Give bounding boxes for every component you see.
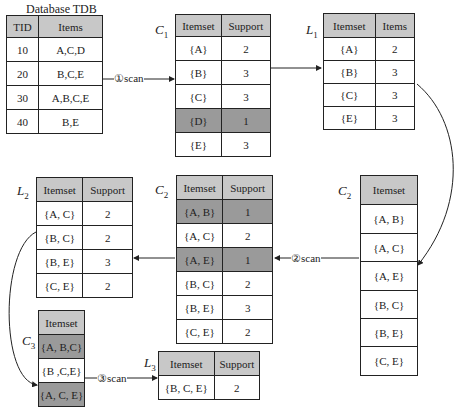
cell: {A} xyxy=(176,37,222,61)
scan-2-label: ②scan xyxy=(291,252,321,265)
l3-table: ItemsetSupport {B, C, E}2 xyxy=(158,351,260,400)
c1-label: C1 xyxy=(155,22,168,40)
col-header: Support xyxy=(83,178,133,202)
cell: 2 xyxy=(223,320,273,344)
cell: 40 xyxy=(7,110,39,134)
c2-label: C2 xyxy=(155,182,168,200)
cell: 1 xyxy=(223,200,273,224)
cell: {E} xyxy=(176,133,222,157)
cell: 2 xyxy=(375,38,414,61)
cell: {B, E} xyxy=(37,250,83,274)
cell: {B, C} xyxy=(177,272,223,296)
cell: 3 xyxy=(375,61,414,84)
cell: 3 xyxy=(221,61,270,85)
scan-1-label: ①scan xyxy=(114,72,144,85)
cell: {B, E} xyxy=(177,296,223,320)
cell: 10 xyxy=(7,38,39,62)
cell: {A} xyxy=(324,38,376,61)
cell: 20 xyxy=(7,62,39,86)
cell: {E} xyxy=(324,107,376,130)
cell: 2 xyxy=(214,376,259,400)
l3-label: L3 xyxy=(144,355,156,373)
col-header: Itemset xyxy=(176,15,222,37)
c2-list-label: C2 xyxy=(338,183,351,201)
col-header: Itemset xyxy=(39,311,85,335)
col-header: TID xyxy=(7,16,39,38)
cell: {C} xyxy=(324,84,376,107)
l2-table: ItemsetSupport {A, C}2 {B, C}2 {B, E}3 {… xyxy=(36,177,133,298)
database-table: TIDItems 10A,C,D 20B,C,E 30A,B,C,E 40B,E xyxy=(6,15,103,134)
cell: 30 xyxy=(7,86,39,110)
cell: {A, B} xyxy=(361,205,418,234)
cell: B,C,E xyxy=(39,62,103,86)
cell: {C, E} xyxy=(177,320,223,344)
cell: 3 xyxy=(221,133,270,157)
cell: 3 xyxy=(83,250,133,274)
cell: {D} xyxy=(176,109,222,133)
cell: {A, C} xyxy=(177,224,223,248)
col-header: Itemset xyxy=(159,352,215,376)
cell: 3 xyxy=(223,296,273,320)
cell: 3 xyxy=(375,107,414,130)
cell: {B, C} xyxy=(37,226,83,250)
cell: {A, C} xyxy=(361,234,418,262)
col-header: Support xyxy=(221,15,270,37)
cell: {B, E} xyxy=(361,319,418,347)
cell: {A, E} xyxy=(177,248,223,272)
cell: {A, C} xyxy=(37,202,83,226)
col-header: Support xyxy=(223,176,273,200)
cell: {A, C, E} xyxy=(39,383,85,407)
col-header: Items xyxy=(375,14,414,38)
col-header: Itemset xyxy=(324,14,376,38)
cell: {C} xyxy=(176,85,222,109)
l1-table: ItemsetItems {A}2 {B}3 {C}3 {E}3 xyxy=(323,13,415,130)
c1-table: ItemsetSupport {A}2 {B}3 {C}3 {D}1 {E}3 xyxy=(175,14,271,157)
cell: {B ,C,E} xyxy=(39,359,85,383)
cell: 1 xyxy=(223,248,273,272)
col-header: Items xyxy=(39,16,103,38)
c2-table: ItemsetSupport {A, B}1 {A, C}2 {A, E}1 {… xyxy=(176,175,273,344)
cell: {B} xyxy=(176,61,222,85)
cell: 2 xyxy=(223,224,273,248)
cell: {B, C} xyxy=(361,291,418,319)
col-header: Itemset xyxy=(177,176,223,200)
l1-label: L1 xyxy=(306,22,318,40)
cell: 2 xyxy=(83,202,133,226)
cell: {C, E} xyxy=(361,347,418,376)
cell: 2 xyxy=(223,272,273,296)
cell: {A, E} xyxy=(361,262,418,291)
cell: 2 xyxy=(83,226,133,250)
col-header: Itemset xyxy=(37,178,83,202)
c3-table: Itemset {A, B,C} {B ,C,E} {A, C, E} xyxy=(38,310,85,407)
cell: 3 xyxy=(221,85,270,109)
l2-label: L2 xyxy=(17,183,29,201)
cell: 2 xyxy=(83,274,133,298)
cell: 3 xyxy=(375,84,414,107)
c2-list-table: Itemset {A, B} {A, C} {A, E} {B, C} {B, … xyxy=(360,175,418,376)
col-header: Support xyxy=(214,352,259,376)
cell: A,B,C,E xyxy=(39,86,103,110)
c3-label: C3 xyxy=(22,333,35,351)
cell: {C, E} xyxy=(37,274,83,298)
scan-3-label: ③scan xyxy=(97,372,127,385)
cell: {B} xyxy=(324,61,376,84)
cell: A,C,D xyxy=(39,38,103,62)
cell: 2 xyxy=(221,37,270,61)
cell: {B, C, E} xyxy=(159,376,215,400)
cell: B,E xyxy=(39,110,103,134)
cell: 1 xyxy=(221,109,270,133)
cell: {A, B} xyxy=(177,200,223,224)
col-header: Itemset xyxy=(361,176,418,205)
cell: {A, B,C} xyxy=(39,335,85,359)
